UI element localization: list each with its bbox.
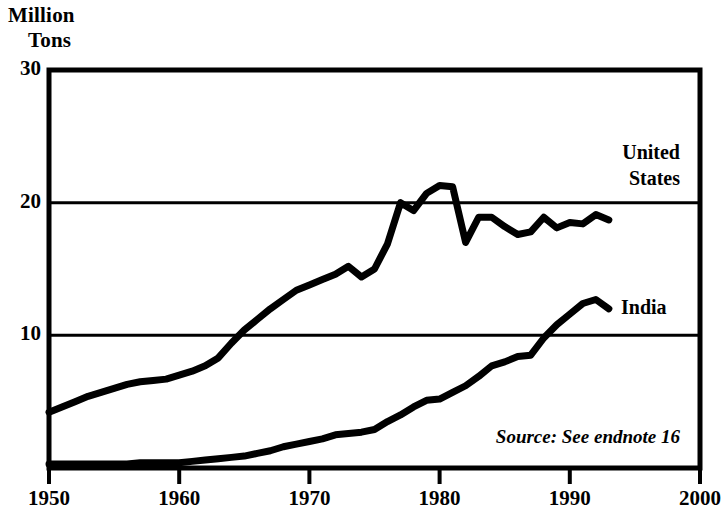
y-axis-tick-label-10: 10: [0, 321, 41, 346]
x-axis-tick-label-1970: 1970: [271, 486, 347, 511]
series-line-united-states: [49, 185, 609, 412]
data-series: [49, 185, 609, 464]
chart-container: Million Tons 30 20 10 1950 1960 1970 198…: [0, 0, 724, 516]
source-annotation: Source: See endnote 16: [400, 426, 680, 448]
series-label-united-states-line-2: States: [520, 166, 680, 190]
series-label-united-states-line-1: United: [520, 140, 680, 164]
x-axis-tick-label-1980: 1980: [402, 486, 478, 511]
y-axis-tick-label-20: 20: [0, 189, 41, 214]
y-axis-tick-label-30: 30: [0, 56, 41, 81]
x-axis-tick-label-1950: 1950: [11, 486, 87, 511]
x-axis-tick-label-2000: 2000: [662, 486, 724, 511]
x-axis-tick-label-1990: 1990: [532, 486, 608, 511]
series-label-india: India: [621, 295, 711, 319]
x-axis-tick-label-1960: 1960: [141, 486, 217, 511]
